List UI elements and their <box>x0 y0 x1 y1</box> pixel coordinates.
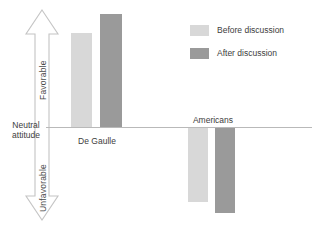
legend-item-before: Before discussion <box>190 22 284 38</box>
zero-baseline <box>46 127 312 128</box>
attitude-polarization-chart: Favorable Unfavorable Neutral attitude D… <box>0 0 315 229</box>
legend-item-after: After discussion <box>190 45 284 61</box>
bar-de-gaulle-before <box>71 33 92 127</box>
legend: Before discussion After discussion <box>190 22 284 68</box>
neutral-attitude-line1: Neutral <box>0 120 52 130</box>
legend-label-before: Before discussion <box>217 25 284 35</box>
legend-label-after: After discussion <box>217 48 277 58</box>
favorable-axis-label: Favorable <box>38 60 48 100</box>
unfavorable-axis-label: Unfavorable <box>38 164 48 212</box>
neutral-attitude-line2: attitude <box>0 130 52 140</box>
group-label-de-gaulle: De Gaulle <box>70 136 124 146</box>
neutral-attitude-label: Neutral attitude <box>0 120 52 140</box>
legend-swatch-before <box>190 25 209 36</box>
bar-americans-before <box>188 128 208 202</box>
bar-americans-after <box>215 128 235 213</box>
legend-swatch-after <box>190 48 209 59</box>
bar-de-gaulle-after <box>100 14 122 127</box>
group-label-americans: Americans <box>186 115 240 125</box>
